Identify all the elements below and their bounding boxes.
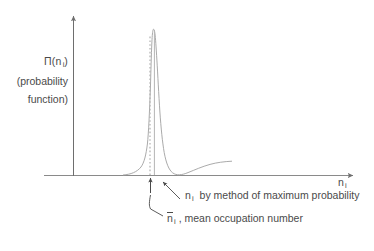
y-axis-symbol-close: ): [64, 55, 68, 67]
x-axis-label-main: n: [338, 176, 344, 188]
annotation-max-symbol: n: [185, 189, 191, 201]
annotation-max-text: by method of maximum probability: [200, 189, 360, 201]
probability-curve: [123, 29, 232, 175]
y-axis-symbol-main: Π(n: [44, 55, 62, 67]
max-probability-leader: [163, 182, 180, 199]
annotation-mean-symbol: n: [167, 212, 173, 224]
x-axis-label: ni: [338, 177, 347, 190]
y-axis-caption-line1: (probability: [4, 76, 68, 87]
annotation-max-symbol-subscript: i: [191, 194, 194, 203]
y-axis-symbol: Π(ni): [4, 56, 68, 69]
annotation-mean-symbol-subscript: i: [173, 217, 176, 226]
annotation-mean-occupation: ni , mean occupation number: [167, 212, 303, 226]
mean-occupation-leader: [149, 195, 163, 216]
annotation-mean-text: , mean occupation number: [179, 212, 303, 224]
y-axis-caption: Π(ni) (probability function): [4, 56, 68, 112]
annotation-max-probability: ni by method of maximum probability: [185, 190, 359, 203]
probability-function-figure: Π(ni) (probability function) ni ni by me…: [0, 0, 374, 251]
y-axis-caption-line2: function): [4, 94, 68, 105]
